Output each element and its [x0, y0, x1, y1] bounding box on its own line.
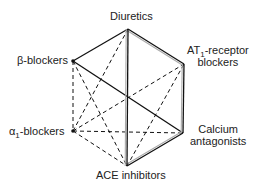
edge-double-gray-diuretics-ace [125, 29, 126, 166]
node-dot-beta [71, 59, 75, 63]
label-ace-inhibitors: ACE inhibitors [96, 169, 166, 181]
edge-double-gray-at1-calcium [181, 64, 182, 133]
label-alpha1-blockers: α1-blockers [9, 125, 64, 137]
edge-double-at1-calcium [183, 64, 184, 133]
node-dot-alpha1 [71, 129, 75, 133]
edge-double-gray-calcium-ace [126, 131, 182, 164]
edge-double-gray-diuretics-at1 [127, 31, 183, 66]
label-calcium-antagonists: Calciumantagonists [190, 123, 246, 147]
edge-double-diuretics-at1 [128, 29, 184, 64]
edge-dashed-beta-ace [73, 61, 127, 166]
label-beta-blockers: β-blockers [17, 54, 68, 66]
hexagon-diagram [0, 0, 257, 189]
edge-dashed-alpha1-ace [73, 131, 127, 166]
edge-dashed-alpha1-calcium [73, 131, 183, 133]
label-diuretics: Diuretics [110, 10, 153, 22]
edge-double-diuretics-ace [127, 29, 128, 166]
label-at1-receptor-blockers: AT1-receptorblockers [187, 44, 249, 68]
edge-double-calcium-ace [127, 133, 183, 166]
